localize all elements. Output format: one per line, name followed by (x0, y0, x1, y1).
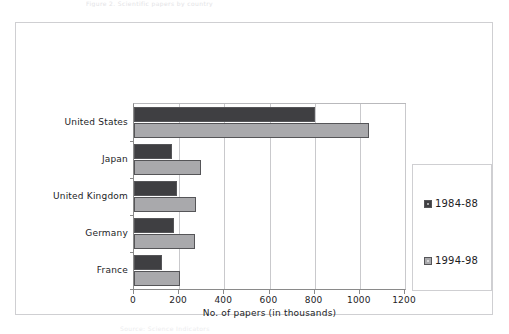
bar-france-1984-88 (134, 255, 162, 270)
category-axis-tick (130, 178, 134, 179)
bar-united-kingdom-1984-88 (134, 181, 177, 196)
figure-frame: United StatesJapanUnited KingdomGermanyF… (15, 22, 493, 315)
bar-japan-1984-88 (134, 144, 172, 159)
legend-label: 1984-88 (435, 198, 478, 209)
category-axis-tick (130, 215, 134, 216)
plot-area (133, 103, 406, 290)
value-axis-tick-label: 200 (169, 295, 187, 305)
value-axis-tick-label: 1000 (347, 295, 371, 305)
category-label-japan: Japan (102, 154, 128, 164)
value-axis-tick (314, 290, 315, 294)
bar-germany-1984-88 (134, 218, 174, 233)
value-axis-tick (404, 290, 405, 294)
value-axis-tick (178, 290, 179, 294)
legend-entry-1984-88[interactable]: 1984-88 (424, 198, 478, 209)
category-label-united-kingdom: United Kingdom (53, 191, 128, 201)
category-label-germany: Germany (85, 228, 128, 238)
value-axis-tick (269, 290, 270, 294)
legend-swatch-icon (424, 200, 432, 208)
legend-entry-1994-98[interactable]: 1994-98 (424, 255, 478, 266)
bar-germany-1994-98 (134, 234, 195, 249)
value-axis-title: No. of papers (in thousands) (133, 308, 406, 318)
bar-japan-1994-98 (134, 160, 201, 175)
category-axis-labels: United StatesJapanUnited KingdomGermanyF… (32, 103, 128, 290)
chart-legend: 1984-881994-98 (412, 164, 492, 291)
category-axis-tick (130, 141, 134, 142)
category-axis-tick (130, 252, 134, 253)
bar-france-1994-98 (134, 271, 180, 286)
gridline (405, 104, 406, 289)
bar-united-kingdom-1994-98 (134, 197, 196, 212)
bar-united-states-1984-88 (134, 107, 315, 122)
value-axis-tick-label: 400 (214, 295, 232, 305)
bar-united-states-1994-98 (134, 123, 369, 138)
legend-label: 1994-98 (435, 255, 478, 266)
value-axis-tick-label: 800 (305, 295, 323, 305)
bars-layer (134, 104, 405, 289)
value-axis-tick-label: 600 (260, 295, 278, 305)
value-axis-tick (359, 290, 360, 294)
value-axis-tick-label: 0 (130, 295, 136, 305)
bottom-margin-ghost-text: Source: Science Indicators (120, 325, 320, 333)
category-label-united-states: United States (64, 117, 128, 127)
value-axis-tick (223, 290, 224, 294)
value-axis-tick (133, 290, 134, 294)
value-axis-tick-label: 1200 (392, 295, 416, 305)
legend-swatch-icon (424, 257, 432, 265)
category-label-france: France (97, 265, 128, 275)
top-margin-ghost-text: Figure 2. Scientific papers by country (86, 0, 266, 7)
